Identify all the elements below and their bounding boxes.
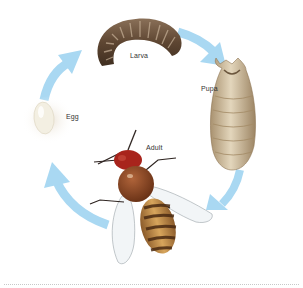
arrow-egg-to-larva-icon [44,50,82,100]
bottom-divider [4,284,299,285]
larva-label: Larva [130,52,148,59]
adult-label: Adult [146,144,162,151]
arrow-adult-to-egg-icon [44,162,108,225]
life-cycle-diagram: Larva Pupa Egg Adult [0,0,303,288]
pupa-label: Pupa [201,85,218,92]
pupa-illustration [210,58,255,170]
egg-illustration [22,96,74,144]
arrow-pupa-to-adult-icon [206,170,240,210]
egg-label: Egg [66,113,79,120]
arrow-larva-to-pupa-icon [178,32,226,66]
